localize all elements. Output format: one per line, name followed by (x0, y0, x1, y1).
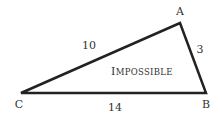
side-label-cb: 14 (108, 101, 122, 114)
impossible-caption: IMPOSSIBLE (111, 65, 173, 78)
triangle-shape (21, 23, 206, 93)
vertex-label-b: B (202, 98, 210, 111)
side-label-ca: 10 (82, 39, 96, 52)
side-label-ab: 3 (197, 43, 204, 56)
triangle-diagram: A B C 10 3 14 IMPOSSIBLE (0, 0, 222, 116)
vertex-label-a: A (175, 5, 185, 18)
caption-rest: MPOSSIBLE (116, 67, 173, 77)
vertex-label-c: C (15, 98, 23, 111)
